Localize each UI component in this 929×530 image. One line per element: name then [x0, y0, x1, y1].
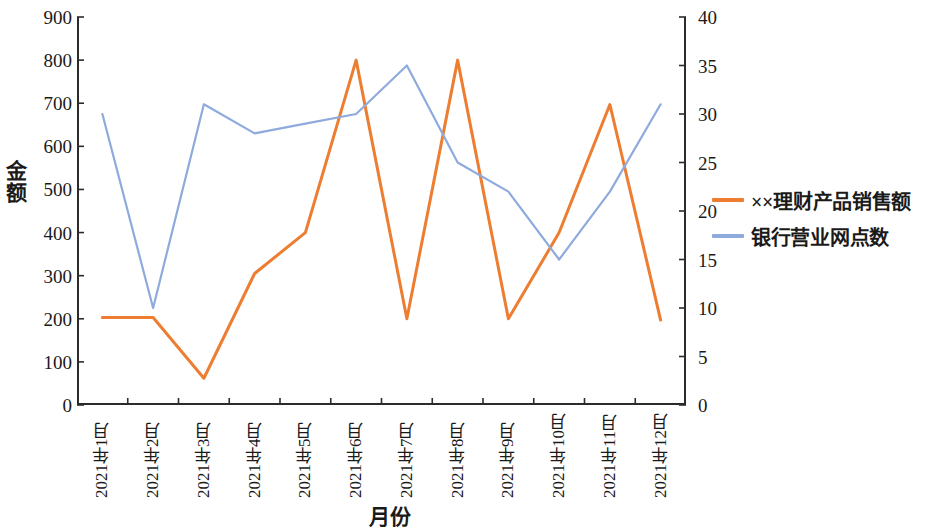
x-axis-tick-label: 2021年1月 [91, 414, 113, 498]
y-axis-left-tick-label: 600 [28, 137, 72, 156]
chart-legend: ××理财产品销售额银行营业网点数 [712, 182, 927, 254]
y-axis-left-tick-label: 300 [28, 266, 72, 285]
x-axis-tick-label: 2021年6月 [345, 414, 367, 498]
y-axis-left-tick-label: 800 [28, 51, 72, 70]
y-axis-left-tick-label: 100 [28, 352, 72, 371]
legend-color-swatch [712, 198, 744, 202]
y-axis-right-tick-label: 0 [698, 396, 738, 415]
y-axis-left-ticks: 9008007006005004003002001000 [20, 0, 72, 530]
x-axis-tick-label: 2021年7月 [396, 414, 418, 498]
plot-area [77, 17, 686, 405]
series-line [102, 60, 660, 378]
x-axis-tick-label: 2021年9月 [497, 414, 519, 498]
legend-label: 银行营业网点数 [751, 222, 889, 251]
x-axis-tick-label: 2021年12月 [650, 414, 672, 498]
y-axis-left-tick-label: 0 [28, 396, 72, 415]
x-axis-tick-label: 2021年2月 [142, 414, 164, 498]
legend-item[interactable]: 银行营业网点数 [712, 218, 927, 254]
y-axis-left-tick-label: 700 [28, 94, 72, 113]
y-axis-left-tick-label: 200 [28, 309, 72, 328]
x-axis-title: 月份 [330, 500, 450, 530]
legend-item[interactable]: ××理财产品销售额 [712, 182, 927, 218]
y-axis-right-tick-label: 35 [698, 56, 738, 75]
line-chart: 金额 9008007006005004003002001000 40353025… [0, 0, 929, 530]
y-axis-right-tick-label: 30 [698, 105, 738, 124]
y-axis-right-ticks: 4035302520151050 [690, 0, 730, 530]
series-lines [77, 17, 686, 405]
y-axis-left-tick-label: 900 [28, 8, 72, 27]
legend-label: ××理财产品销售额 [751, 186, 911, 215]
x-axis-tick-label: 2021年10月 [548, 414, 570, 498]
x-axis-tick-label: 2021年3月 [193, 414, 215, 498]
y-axis-left-tick-label: 400 [28, 223, 72, 242]
legend-color-swatch [712, 234, 744, 238]
y-axis-right-tick-label: 5 [698, 347, 738, 366]
y-axis-right-tick-label: 10 [698, 299, 738, 318]
x-axis-tick-label: 2021年11月 [599, 414, 621, 498]
y-axis-left-tick-label: 500 [28, 180, 72, 199]
x-axis-tick-label: 2021年8月 [447, 414, 469, 498]
x-axis-tick-label: 2021年5月 [294, 414, 316, 498]
y-axis-right-tick-label: 25 [698, 153, 738, 172]
y-axis-right-tick-label: 40 [698, 8, 738, 27]
x-axis-tick-label: 2021年4月 [244, 414, 266, 498]
